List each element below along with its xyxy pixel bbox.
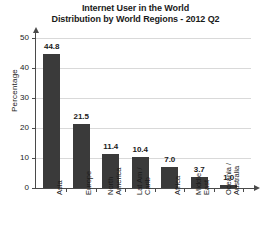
- chart-title-line-2: Distribution by World Regions - 2012 Q2: [0, 14, 271, 25]
- x-tick-mark: [125, 188, 126, 192]
- gridline: [35, 128, 251, 129]
- x-category-label-line: Africa: [174, 176, 182, 195]
- bar-value-label: 10.4: [126, 146, 155, 154]
- x-category-label: Asia: [56, 180, 64, 195]
- x-tick-mark: [243, 188, 244, 192]
- x-category-label: Oceania /Australia: [225, 163, 241, 195]
- bar-value-label: 21.5: [67, 113, 96, 121]
- y-axis-arrow-icon: [33, 27, 39, 33]
- y-tick-label: 30: [3, 94, 29, 102]
- gridline: [35, 68, 251, 69]
- x-category-label: MiddleEast: [195, 173, 211, 195]
- bar-value-label: 44.8: [37, 43, 66, 51]
- y-tick-label: 50: [3, 34, 29, 42]
- x-category-label: Europe: [85, 171, 93, 195]
- bar-value-label: 11.4: [96, 143, 125, 151]
- x-category-label: NorthAmerica: [107, 167, 123, 195]
- x-axis-arrow-icon: [254, 185, 260, 191]
- x-tick-mark: [66, 188, 67, 192]
- x-category-label-line: Carib: [144, 167, 152, 195]
- chart-title-line-1: Internet User in the World: [0, 3, 271, 14]
- chart-title: Internet User in the World Distribution …: [0, 3, 271, 25]
- bar-value-label: 7.0: [155, 156, 184, 164]
- y-tick-label: 0: [3, 184, 29, 192]
- y-tick-label: 40: [3, 64, 29, 72]
- x-category-label-line: Australia: [233, 163, 241, 195]
- x-category-label-line: Europe: [85, 171, 93, 195]
- x-tick-mark: [184, 188, 185, 192]
- plot-area: 01020304050 44.821.511.410.47.03.71.0 As…: [35, 38, 251, 188]
- y-tick-label: 20: [3, 124, 29, 132]
- x-category-label-line: Asia: [56, 180, 64, 195]
- x-category-label-line: East: [203, 173, 211, 195]
- x-tick-mark: [155, 188, 156, 192]
- x-tick-mark: [96, 188, 97, 192]
- x-category-label: Lat Am /Carib: [136, 167, 152, 195]
- gridline: [35, 98, 251, 99]
- bar: [43, 54, 60, 188]
- gridline: [35, 38, 251, 39]
- x-tick-mark: [214, 188, 215, 192]
- chart-container: Internet User in the World Distribution …: [0, 0, 271, 245]
- y-axis-line: [35, 32, 36, 188]
- x-category-label-line: America: [115, 167, 123, 195]
- y-tick-label: 10: [3, 154, 29, 162]
- x-category-label: Africa: [174, 176, 182, 195]
